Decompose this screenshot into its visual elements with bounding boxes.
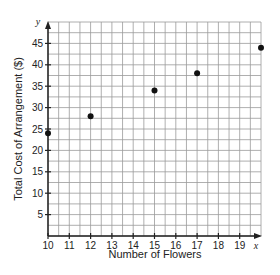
grid-lines [48,22,261,236]
x-tick-label: 10 [42,240,54,251]
y-tick-label: 30 [32,102,44,113]
data-point [194,70,200,76]
y-tick-label: 15 [32,166,44,177]
y-tick-label: 10 [32,188,44,199]
data-point [258,45,264,51]
data-point [152,87,158,93]
y-tick-label: 40 [32,59,44,70]
x-axis-title: Number of Flowers [109,248,202,260]
x-axis-variable: x [253,240,259,251]
y-tick-label: 35 [32,81,44,92]
x-tick-label: 12 [85,240,97,251]
y-axis-title: Total Cost of Arrangement ($) [12,57,24,201]
x-tick-label: 19 [234,240,246,251]
y-tick-label: 20 [32,145,44,156]
y-tick-label: 45 [32,38,44,49]
y-axis-variable: y [35,16,41,27]
x-tick-label: 18 [213,240,225,251]
data-point [88,113,94,119]
scatter-chart: 1011121314151617181951015202530354045 Nu… [0,0,280,275]
x-tick-label: 11 [64,240,75,251]
y-tick-label: 5 [37,209,43,220]
y-tick-label: 25 [32,124,44,135]
tick-labels: 1011121314151617181951015202530354045 [32,38,246,251]
data-point [45,130,51,136]
